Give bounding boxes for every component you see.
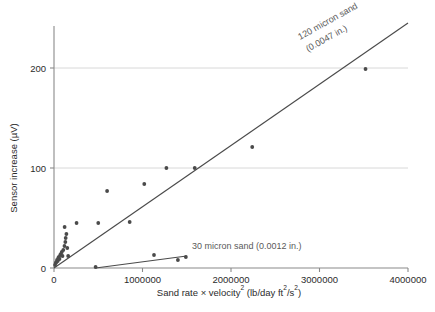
fit-line — [96, 256, 187, 268]
data-point — [63, 225, 67, 229]
data-point — [63, 240, 67, 244]
series-label-30-micron: 30 micron sand (0.0012 in.) — [192, 241, 302, 251]
data-point — [105, 189, 109, 193]
y-tick-label: 200 — [30, 63, 46, 74]
series-label-120-micron: 120 micron sand (0.0047 in.) — [296, 1, 359, 54]
x-tick-label: 1000000 — [124, 274, 161, 285]
data-point — [75, 221, 79, 225]
data-point — [65, 246, 69, 250]
data-point — [96, 221, 100, 225]
x-axis-title: Sand rate × velocity2 (lb/day ft2/s2) — [157, 283, 301, 298]
x-axis-tick-labels: 01000000200000030000004000000 — [51, 274, 426, 285]
data-point — [66, 254, 70, 258]
data-point — [61, 254, 65, 258]
fit-lines — [54, 23, 408, 268]
data-point — [61, 248, 65, 252]
data-point — [364, 67, 368, 71]
gridlines — [54, 68, 408, 168]
data-point — [94, 265, 98, 269]
data-point — [128, 220, 132, 224]
data-point — [176, 258, 180, 262]
fit-line — [54, 23, 408, 268]
data-point — [152, 253, 156, 257]
y-axis-tick-labels: 0100200 — [30, 63, 46, 274]
x-axis-ticks — [54, 268, 408, 272]
chart-container: 01000000200000030000004000000 0100200 Sa… — [0, 0, 435, 312]
x-tick-label: 4000000 — [390, 274, 427, 285]
data-point — [164, 166, 168, 170]
y-axis-ticks — [50, 68, 54, 268]
data-point — [250, 145, 254, 149]
x-tick-label: 3000000 — [301, 274, 338, 285]
data-point — [142, 182, 146, 186]
x-tick-label: 0 — [51, 274, 56, 285]
data-point — [64, 236, 68, 240]
data-point — [193, 166, 197, 170]
scatter-plot: 01000000200000030000004000000 0100200 Sa… — [0, 0, 435, 312]
data-point — [184, 255, 188, 259]
data-point — [64, 232, 68, 236]
y-tick-label: 100 — [30, 163, 46, 174]
data-point — [58, 257, 62, 261]
y-axis-title: Sensor increase (µV) — [8, 123, 19, 212]
y-tick-label: 0 — [41, 263, 46, 274]
